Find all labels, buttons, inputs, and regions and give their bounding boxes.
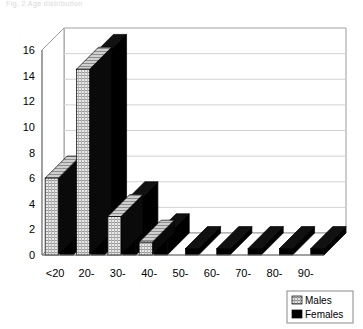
y-axis-tick-labels: 0246810121416	[23, 44, 35, 261]
x-tick-label: 80-	[267, 267, 283, 279]
legend-swatch-females	[292, 310, 302, 318]
x-tick-label: 30-	[110, 267, 126, 279]
legend-label-males: Males	[305, 295, 332, 306]
y-tick-label: 12	[23, 95, 35, 107]
x-tick-label: 40-	[141, 267, 157, 279]
y-tick-label: 8	[29, 147, 35, 159]
y-tick-label: 14	[23, 70, 35, 82]
x-tick-label: 50-	[173, 267, 189, 279]
chart-canvas: 0246810121416 <2020-30-40-50-60-70-80-90…	[0, 0, 363, 329]
bar-chart-figure: Fig. 2 Age distribution 0246810121416	[0, 0, 363, 329]
y-tick-label: 16	[23, 44, 35, 56]
x-tick-label: 70-	[235, 267, 251, 279]
x-tick-label: 90-	[298, 267, 314, 279]
x-tick-label: 60-	[204, 267, 220, 279]
y-tick-label: 10	[23, 121, 35, 133]
x-tick-label: 20-	[79, 267, 95, 279]
y-tick-label: 0	[29, 249, 35, 261]
chart-legend: MalesFemales	[287, 291, 353, 323]
y-tick-label: 6	[29, 172, 35, 184]
y-tick-label: 2	[29, 223, 35, 235]
legend-swatch-males	[292, 296, 302, 304]
legend-label-females: Females	[305, 309, 343, 320]
x-axis-tick-labels: <2020-30-40-50-60-70-80-90-	[46, 267, 314, 279]
x-tick-label: <20	[46, 267, 65, 279]
y-tick-label: 4	[29, 198, 35, 210]
